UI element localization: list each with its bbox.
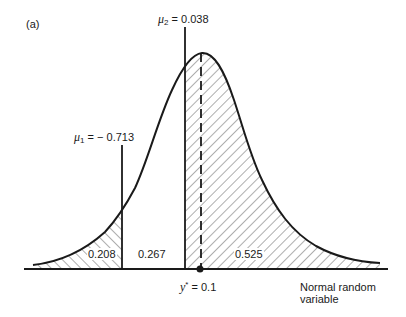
ystar-point [197, 266, 204, 273]
panel-label: (a) [26, 18, 39, 30]
middle-area-value: 0.267 [138, 248, 166, 260]
ystar-equals: = [188, 281, 201, 293]
ystar-label: y* = 0.1 [180, 279, 216, 293]
ystar-value: 0.1 [201, 281, 216, 293]
right-area-value: 0.525 [234, 248, 264, 260]
x-axis-label-line2: variable [300, 293, 339, 305]
right-hatched-area [33, 53, 380, 269]
mu1-value: 0.713 [107, 131, 135, 143]
mu2-label: μ2 = 0.038 [158, 13, 209, 29]
mu2-equals: = [168, 13, 181, 25]
mu2-value: 0.038 [181, 13, 209, 25]
normal-distribution-figure: (a) μ2 = 0.038 μ1 = − 0.713 0.208 0.267 … [0, 0, 406, 317]
distribution-plot [0, 0, 406, 317]
x-axis-label-line1: Normal random [300, 281, 376, 293]
mu1-label: μ1 = − 0.713 [74, 131, 134, 147]
mu1-equals: = − [84, 131, 106, 143]
left-tail-area-value: 0.208 [87, 248, 117, 260]
